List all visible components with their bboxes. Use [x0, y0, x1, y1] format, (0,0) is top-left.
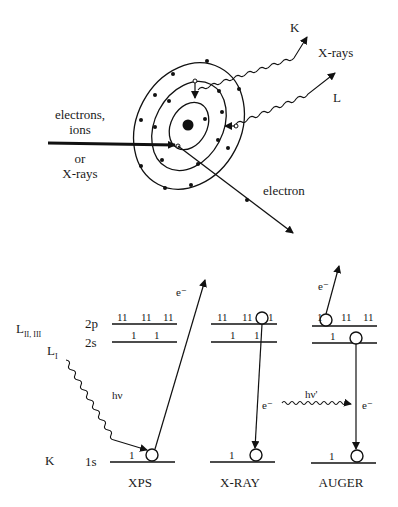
shell-label-k: K	[45, 454, 54, 467]
panel-label-xray: X-RAY	[210, 476, 270, 489]
xray-2p-1: 11	[217, 312, 228, 323]
auger-2s-1: 1	[330, 331, 336, 342]
incoming-label-line: electrons,	[50, 108, 110, 121]
xps-electron-label: e⁻	[176, 287, 187, 298]
auger-2p-1: 1	[317, 312, 323, 323]
xrays-label: X-rays	[318, 46, 353, 59]
xps-2s-1: 1	[131, 330, 137, 341]
l-label: L	[333, 91, 341, 104]
auger-ejected-label: e⁻	[318, 281, 329, 292]
xps-photon-wave	[66, 360, 147, 450]
xray-2p-2: 11	[242, 312, 253, 323]
xray-1s: 1	[229, 450, 235, 461]
auger-2p-3: 11	[363, 312, 374, 323]
energy-levels	[110, 324, 377, 463]
incoming-label: electrons, ions	[50, 108, 110, 136]
electron-label: electron	[263, 184, 305, 197]
auger-1s: 1	[329, 451, 335, 462]
orbital-label-2s: 2s	[85, 336, 97, 349]
orbital-label-1s: 1s	[85, 455, 97, 468]
xps-2p-3: 11	[163, 312, 174, 323]
incoming-label-line: X-rays	[50, 167, 110, 180]
xray-2p-3: 1	[268, 312, 274, 323]
photon-out-label: hν'	[305, 389, 317, 400]
shell-label-l23: LII, III	[16, 322, 41, 339]
auger-photon-wave	[282, 402, 351, 405]
xps-2s-2: 1	[154, 330, 160, 341]
panel-label-xps: XPS	[120, 476, 160, 489]
xps-2p-2: 11	[141, 312, 152, 323]
photon-in-label: hν	[112, 390, 122, 401]
xray-2s-2: 1	[254, 330, 260, 341]
k-label: K	[290, 21, 299, 34]
auger-2p-2: 11	[341, 312, 352, 323]
xray-l-wave	[236, 73, 335, 124]
incoming-label-line: or	[50, 152, 110, 165]
xps-1s: 1	[129, 450, 135, 461]
orbital-label-2p: 2p	[85, 317, 98, 330]
shell-label-l1: LI	[47, 344, 58, 361]
incoming-beam-arrow	[48, 143, 175, 145]
incoming-label-line: ions	[50, 123, 110, 136]
panel-label-auger: AUGER	[310, 476, 372, 489]
incoming-label-2: or X-rays	[50, 152, 110, 180]
vacancy-middle	[193, 79, 197, 83]
xray-2s-1: 1	[230, 330, 236, 341]
diagram-canvas	[0, 0, 398, 507]
nucleus	[183, 120, 194, 131]
auger-electron-label: e⁻	[362, 400, 373, 411]
xray-k-wave	[198, 37, 307, 90]
xps-2p-1: 11	[117, 312, 128, 323]
xray-electron-label: e⁻	[262, 400, 273, 411]
